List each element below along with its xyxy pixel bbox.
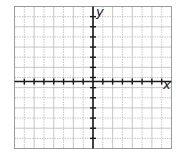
coordinate-grid: y x <box>0 0 181 158</box>
y-axis-label: y <box>95 4 104 19</box>
x-axis-label: x <box>162 77 171 92</box>
